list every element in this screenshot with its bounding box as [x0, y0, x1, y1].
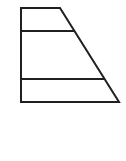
- trapezoid-outline: [21, 8, 119, 102]
- trapezoid-diagram: [0, 0, 126, 161]
- figure-canvas: [0, 0, 126, 161]
